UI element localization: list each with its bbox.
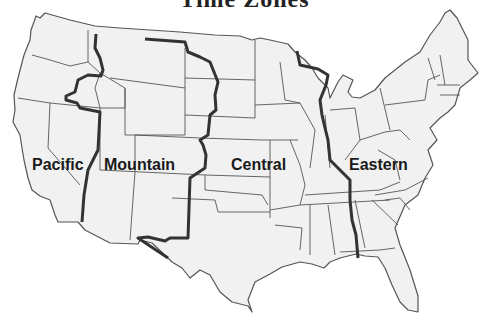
zone-label-pacific: Pacific [32,156,84,174]
zone-label-eastern: Eastern [349,156,408,174]
zone-label-mountain: Mountain [104,156,175,174]
zone-label-central: Central [231,156,286,174]
